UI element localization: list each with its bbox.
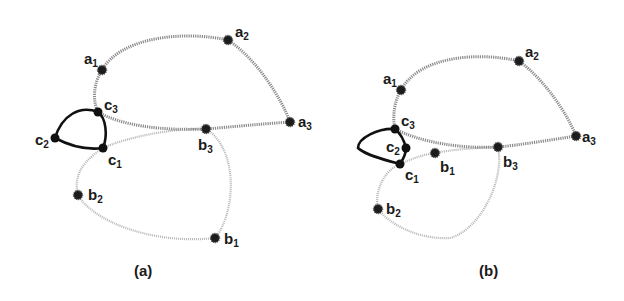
node-c3 — [94, 108, 103, 117]
label-b2: b2 — [386, 200, 401, 219]
panel-b: a1 a2 a3 b3 b1 b2 c3 c2 c1 (b) — [358, 43, 596, 279]
label-c2: c2 — [386, 138, 400, 157]
label-a1: a1 — [383, 70, 397, 89]
label-a2: a2 — [525, 43, 539, 62]
label-a3: a3 — [298, 113, 312, 132]
node-a3 — [572, 132, 581, 141]
node-a3 — [286, 118, 295, 127]
node-c2 — [402, 144, 411, 153]
node-c1 — [99, 144, 108, 153]
cycle-b-b — [377, 147, 499, 238]
label-c1: c1 — [405, 166, 419, 185]
node-b1 — [431, 149, 440, 158]
cycle-a-b — [394, 57, 576, 148]
node-b3 — [202, 125, 211, 134]
node-c2 — [51, 134, 60, 143]
label-a2: a2 — [235, 23, 249, 42]
caption-b: (b) — [479, 262, 498, 279]
node-c3 — [391, 125, 400, 134]
node-a2 — [224, 36, 233, 45]
label-b3: b3 — [503, 153, 518, 172]
label-b2: b2 — [88, 186, 103, 205]
node-a1 — [98, 66, 107, 75]
node-b2 — [374, 205, 383, 214]
node-a2 — [515, 57, 524, 66]
label-a1: a1 — [84, 50, 98, 69]
figure-canvas: a1 a2 a3 b3 b2 b1 c3 c2 c1 (a) a1 a2 a3 … — [0, 0, 624, 301]
node-b2 — [74, 191, 83, 200]
caption-a: (a) — [134, 262, 152, 279]
cycle-a-a — [95, 36, 290, 129]
node-b3 — [494, 143, 503, 152]
panel-a: a1 a2 a3 b3 b2 b1 c3 c2 c1 (a) — [35, 23, 312, 279]
label-b3: b3 — [198, 136, 213, 155]
label-a3: a3 — [582, 128, 596, 147]
label-b1: b1 — [440, 158, 455, 177]
label-c3: c3 — [104, 96, 118, 115]
node-c1 — [396, 160, 405, 169]
label-c1: c1 — [108, 151, 122, 170]
label-c3: c3 — [401, 112, 415, 131]
node-b1 — [211, 234, 220, 243]
label-c2: c2 — [35, 131, 49, 150]
label-b1: b1 — [224, 230, 239, 249]
node-a1 — [397, 86, 406, 95]
